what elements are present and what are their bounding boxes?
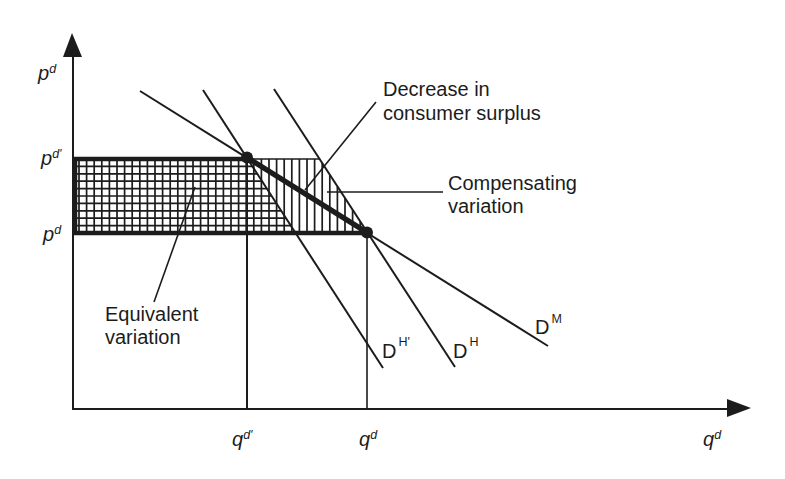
label-hicksian-prime: DH'	[382, 335, 410, 362]
annotation-equivalent-line2: variation	[105, 326, 181, 348]
welfare-change-diagram: pd pd' pd qd' qd qd DH' DH DM Decrease i…	[0, 0, 785, 479]
y-axis-arrow-icon	[63, 33, 82, 57]
x-axis-arrow-icon	[727, 399, 751, 417]
x-axis-label: qd	[703, 428, 722, 450]
hicksian-prime-demand-curve	[203, 90, 383, 368]
annotation-compensating-line2: variation	[448, 195, 524, 217]
annotation-decrease-cs-line2: consumer surplus	[383, 102, 541, 124]
new-equilibrium-point	[361, 227, 373, 239]
label-hicksian: DH	[453, 335, 478, 362]
old-equilibrium-point	[241, 152, 253, 164]
y-tick-p: pd	[42, 223, 62, 245]
y-axis-label: pd	[37, 62, 57, 84]
y-tick-p-prime: pd'	[40, 147, 62, 169]
x-tick-q-prime: qd'	[232, 428, 253, 450]
x-tick-q: qd	[359, 428, 378, 450]
label-marshallian: DM	[535, 312, 562, 338]
decrease-cs-leader	[305, 102, 376, 190]
annotation-compensating-line1: Compensating	[448, 172, 577, 194]
annotation-equivalent-line1: Equivalent	[105, 303, 199, 325]
annotation-decrease-cs-line1: Decrease in	[383, 78, 490, 100]
